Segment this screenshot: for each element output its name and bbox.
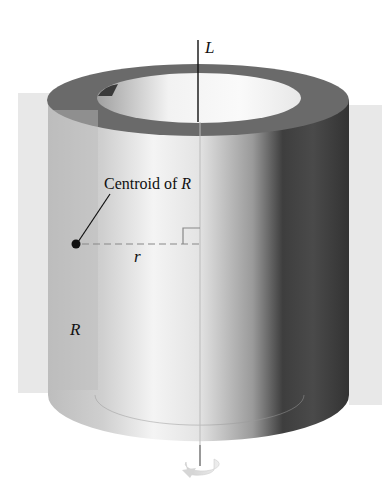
plane-left bbox=[18, 93, 50, 393]
centroid-dot bbox=[72, 240, 81, 249]
rotation-arrow-icon bbox=[182, 459, 219, 478]
plane-right bbox=[349, 105, 382, 405]
centroid-label: Centroid of R bbox=[104, 175, 191, 192]
axis-label: L bbox=[204, 38, 214, 57]
radius-label: r bbox=[134, 247, 141, 266]
pappus-diagram: L Centroid of R r R bbox=[0, 0, 392, 503]
inner-hole bbox=[97, 73, 301, 123]
region-label: R bbox=[69, 320, 81, 339]
region-r bbox=[50, 110, 98, 390]
